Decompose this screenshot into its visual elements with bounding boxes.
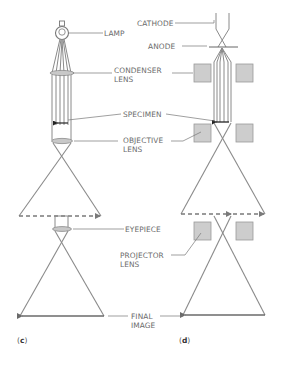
light-microscope <box>19 21 104 316</box>
label-projector-line1: PROJECTOR <box>120 251 164 260</box>
label-projector-line2: LENS <box>120 260 140 269</box>
label-anode: ANODE <box>148 42 175 51</box>
label-condenser-line2: LENS <box>114 75 134 84</box>
objective-magnet-right-icon <box>236 124 253 142</box>
parallel-beam <box>52 75 71 140</box>
panel-tag-c: (c) <box>17 336 27 345</box>
label-cathode: CATHODE <box>137 19 174 28</box>
label-eyepiece: EYEPIECE <box>125 225 161 234</box>
label-specimen: SPECIMEN <box>123 110 162 119</box>
leader-lines <box>68 20 215 316</box>
label-objective-line1: OBJECTIVE <box>123 136 163 145</box>
eyepiece-tube <box>55 216 68 228</box>
final-image-rays <box>20 231 104 316</box>
projector-magnet-left-icon <box>194 222 211 240</box>
lamp-rays <box>52 39 71 73</box>
label-condenser-line1: CONDENSER <box>114 66 162 75</box>
electron-beam <box>214 48 231 122</box>
labels: LAMP CATHODE ANODE CONDENSER LENS SPECIM… <box>104 19 175 330</box>
condenser-lens-icon <box>50 70 74 75</box>
panel-tag-d: (d) <box>179 336 190 345</box>
objective-magnet-left-icon <box>194 124 211 142</box>
projector-magnet-right-icon <box>236 222 253 240</box>
cathode-icon <box>216 13 229 47</box>
condenser-magnet-right-icon <box>236 64 253 82</box>
intermediate-image-rays <box>19 143 101 216</box>
label-final-line2: IMAGE <box>131 321 156 330</box>
eyepiece-lens-icon <box>53 227 72 232</box>
lamp-icon <box>56 21 69 40</box>
electron-microscope <box>181 13 265 315</box>
condenser-magnet-left-icon <box>194 64 211 82</box>
label-objective-line2: LENS <box>123 145 143 154</box>
microscope-comparison-diagram: LAMP CATHODE ANODE CONDENSER LENS SPECIM… <box>0 0 281 365</box>
label-lamp: LAMP <box>104 29 125 38</box>
label-final-line1: FINAL <box>131 312 153 321</box>
objective-lens-icon <box>52 138 73 143</box>
